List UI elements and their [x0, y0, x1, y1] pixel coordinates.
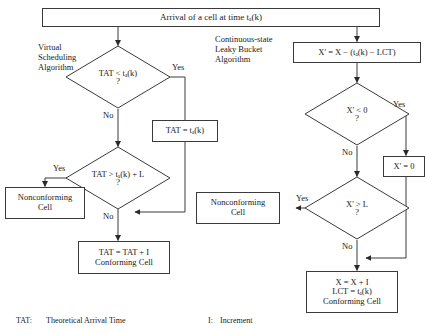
- label-no-decision1-right: No: [342, 147, 352, 157]
- node-arrival-of-cell: Arrival of a cell at time tₐ(k): [42, 8, 380, 27]
- label-continuous-state-leaky-bucket-algorithm: Continuous-stateLeaky BucketAlgorithm: [215, 34, 295, 64]
- node-conforming-cell-right-line3: Conforming Cell: [323, 297, 381, 307]
- node-nonconforming-cell-right: Nonconforming Cell: [196, 192, 280, 224]
- label-yes-decision1-left: Yes: [172, 62, 184, 72]
- decision-tat-less-than-ta: TAT < tₐ(k) ?: [65, 45, 171, 109]
- node-nonconforming-cell-left-line2: Cell: [38, 203, 52, 213]
- legend-desc: Increment: [220, 316, 252, 325]
- decision-tat-greater-question: ?: [116, 178, 120, 186]
- decision-xprime-greater-than-l-question: ?: [355, 208, 359, 216]
- flowchart-canvas: Arrival of a cell at time tₐ(k) VirtualS…: [0, 0, 425, 334]
- label-no-decision1-left: No: [103, 110, 113, 120]
- node-reset-xprime: X' = 0: [383, 156, 425, 177]
- node-assign-tat-equals-ta: TAT = tₐ(k): [152, 120, 218, 142]
- decision-xprime-less-than-zero-question: ?: [355, 114, 359, 122]
- label-yes-decision2-left: Yes: [53, 163, 65, 173]
- node-conforming-cell-left: TAT = TAT + I Conforming Cell: [78, 241, 170, 274]
- decision-xprime-less-than-zero: X' < 0 ?: [304, 82, 410, 146]
- decision-xprime-greater-than-l: X' > L ?: [304, 176, 410, 240]
- label-yes-decision2-right: Yes: [296, 193, 308, 203]
- label-no-decision2-right: No: [342, 241, 352, 251]
- label-no-decision2-left: No: [103, 211, 113, 221]
- node-reset-xprime-label: X' = 0: [392, 162, 417, 172]
- node-assign-xprime: X' = X − (tₐ(k) − LCT): [293, 42, 421, 63]
- node-nonconforming-cell-left: Nonconforming Cell: [5, 187, 85, 219]
- legend-right-column: I:Increment L:Limit: [196, 287, 252, 334]
- legend-desc: Theoretical Arrival Time: [46, 316, 126, 325]
- node-conforming-cell-left-line2: Conforming Cell: [95, 258, 153, 268]
- node-assign-tat-label: TAT = tₐ(k): [164, 126, 206, 136]
- legend-row: TAT:Theoretical Arrival Time: [4, 307, 142, 334]
- label-yes-decision1-right: Yes: [393, 99, 405, 109]
- legend-left-column: TAT:Theoretical Arrival Time tₐ(k):Time …: [4, 287, 142, 334]
- legend-key: I:: [208, 316, 220, 326]
- node-nonconforming-cell-right-line2: Cell: [231, 208, 245, 218]
- node-arrival-label: Arrival of a cell at time tₐ(k): [158, 12, 264, 22]
- node-conforming-cell-right: X = X + I LCT = tₐ(k) Conforming Cell: [306, 271, 398, 313]
- legend-key: TAT:: [16, 316, 46, 326]
- legend-row: I:Increment: [196, 307, 252, 334]
- node-assign-xprime-label: X' = X − (tₐ(k) − LCT): [316, 48, 397, 58]
- decision-tat-less-than-ta-question: ?: [116, 77, 120, 85]
